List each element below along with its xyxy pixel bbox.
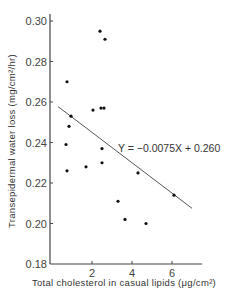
- data-point: [144, 222, 147, 225]
- y-tick-label: 0.24: [26, 137, 47, 149]
- y-ticks: 0.180.200.220.240.260.280.30: [26, 15, 53, 270]
- data-point: [91, 109, 94, 112]
- data-point: [103, 38, 106, 41]
- y-axis-title: Transepidermal water loss (mg/cm²/hr): [6, 54, 17, 228]
- data-points: [64, 30, 175, 226]
- data-point: [116, 200, 119, 203]
- y-tick-label: 0.18: [26, 258, 47, 270]
- data-point: [99, 106, 102, 109]
- axes: [50, 14, 202, 264]
- data-point: [172, 194, 175, 197]
- data-point: [65, 80, 68, 83]
- data-point: [100, 147, 103, 150]
- scatter-chart: 0.180.200.220.240.260.280.30 246 Y = −0.…: [0, 0, 232, 299]
- data-point: [100, 161, 103, 164]
- data-point: [136, 171, 139, 174]
- y-tick-label: 0.30: [26, 15, 47, 27]
- data-point: [67, 125, 70, 128]
- y-tick-label: 0.26: [26, 96, 47, 108]
- y-tick-label: 0.28: [26, 56, 47, 68]
- data-point: [123, 218, 126, 221]
- data-point: [84, 165, 87, 168]
- data-point: [102, 106, 105, 109]
- regression-line: [58, 107, 192, 209]
- data-point: [69, 115, 72, 118]
- y-tick-label: 0.22: [26, 177, 47, 189]
- data-point: [65, 169, 68, 172]
- y-tick-label: 0.20: [26, 218, 47, 230]
- regression-line-path: [58, 107, 192, 209]
- x-axis-title: Total cholesterol in casual lipids (μg/c…: [32, 277, 216, 288]
- data-point: [98, 30, 101, 33]
- regression-equation: Y = −0.0075X + 0.260: [118, 142, 220, 154]
- data-point: [64, 143, 67, 146]
